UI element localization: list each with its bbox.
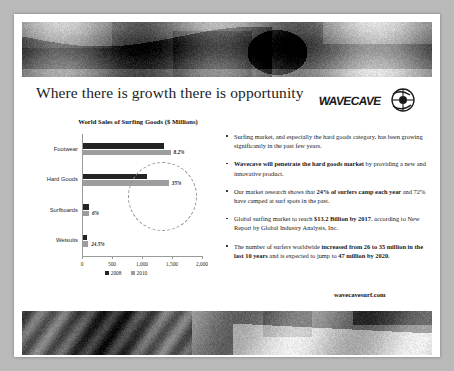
bottom-photo-image bbox=[22, 311, 432, 355]
x-axis-tick-label: 2,000 bbox=[196, 261, 208, 267]
bullet-market-growth: Surfing market, and especially the hard … bbox=[226, 132, 426, 150]
bullet-emphasis: Wavecave will penetrate the hard goods m… bbox=[234, 160, 364, 167]
legend-item-2008: 2008 bbox=[105, 270, 122, 276]
chart-bar-2008 bbox=[83, 143, 164, 149]
bullet-text: and is expected to jump to bbox=[268, 252, 338, 259]
chart-bar-2010 bbox=[83, 211, 89, 217]
bullet-surfer-count: The number of surfers worldwide increase… bbox=[226, 242, 426, 260]
growth-percent-label: 8.2% bbox=[174, 149, 185, 155]
surfing-goods-bar-chart: World Sales of Surfing Goods ($ Millions… bbox=[30, 118, 222, 298]
hard-goods-highlight-ellipse bbox=[128, 162, 197, 231]
growth-percent-label: 6% bbox=[92, 210, 99, 216]
chart-category-label: Hard Goods bbox=[32, 176, 78, 182]
legend-swatch-icon bbox=[105, 271, 109, 275]
bullet-text: Global surfing market to reach bbox=[234, 215, 314, 222]
legend-label: 2008 bbox=[111, 270, 122, 276]
bullet-wavecave-penetrate: Wavecave will penetrate the hard goods m… bbox=[226, 159, 426, 177]
category-label-wrap: Wetsuits bbox=[32, 237, 78, 243]
category-label-wrap: Hard Goods bbox=[32, 176, 78, 182]
legend-label: 2010 bbox=[137, 270, 148, 276]
x-axis-tick bbox=[202, 256, 203, 259]
x-axis-tick-label: 1,500 bbox=[166, 261, 178, 267]
footer-url: wavecavesurf.com bbox=[334, 291, 385, 298]
wavecave-logo-icon: WAVECAVE bbox=[319, 85, 427, 115]
legend-item-2010: 2010 bbox=[131, 270, 148, 276]
bullet-emphasis: 24% of surfers camp each year bbox=[317, 188, 402, 195]
top-photo-band bbox=[22, 22, 432, 77]
legend-swatch-icon bbox=[131, 271, 135, 275]
bullet-text: Surfing market, and especially the hard … bbox=[234, 133, 423, 149]
chart-bar-2008 bbox=[83, 235, 87, 241]
chart-category-label: Wetsuits bbox=[32, 237, 78, 243]
bullet-text: The number of surfers worldwide bbox=[234, 243, 322, 250]
category-label-wrap: Surfboards bbox=[32, 207, 78, 213]
category-label-wrap: Footwear bbox=[32, 146, 78, 152]
bullet-text: Our market research shows that bbox=[234, 188, 317, 195]
presentation-slide: Where there is growth there is opportuni… bbox=[14, 14, 440, 357]
growth-percent-label: 24.5% bbox=[91, 241, 104, 247]
chart-plot-area: 05001,0001,5002,000Footwear8.2%Hard Good… bbox=[82, 134, 202, 256]
chart-bar-2010 bbox=[83, 150, 171, 156]
bullet-emphasis: 47 million by 2020. bbox=[338, 252, 390, 259]
chart-category-label: Footwear bbox=[32, 146, 78, 152]
bullet-market-research: Our market research shows that 24% of su… bbox=[226, 187, 426, 205]
x-axis-tick bbox=[112, 256, 113, 259]
page-title: Where there is growth there is opportuni… bbox=[36, 84, 304, 102]
x-axis-tick bbox=[82, 256, 83, 259]
bottom-photo-band bbox=[22, 311, 432, 355]
chart-category-label: Surfboards bbox=[32, 207, 78, 213]
chart-bar-2008 bbox=[83, 204, 89, 210]
top-photo-image bbox=[22, 22, 432, 77]
x-axis-tick bbox=[172, 256, 173, 259]
chart-bar-2010 bbox=[83, 241, 88, 247]
bullet-list: Surfing market, and especially the hard … bbox=[226, 132, 426, 269]
x-axis-tick bbox=[142, 256, 143, 259]
bullet-global-market: Global surfing market to reach $13.2 Bil… bbox=[226, 214, 426, 232]
chart-title: World Sales of Surfing Goods ($ Millions… bbox=[48, 118, 228, 125]
bullet-emphasis: $13.2 Billion by 2017 bbox=[314, 215, 371, 222]
x-axis-tick-label: 500 bbox=[108, 261, 116, 267]
x-axis-tick-label: 1,000 bbox=[136, 261, 148, 267]
wavecave-logo: WAVECAVE bbox=[319, 85, 427, 115]
svg-text:WAVECAVE: WAVECAVE bbox=[319, 94, 382, 108]
chart-legend: 20082010 bbox=[30, 270, 222, 276]
x-axis-tick-label: 0 bbox=[81, 261, 84, 267]
